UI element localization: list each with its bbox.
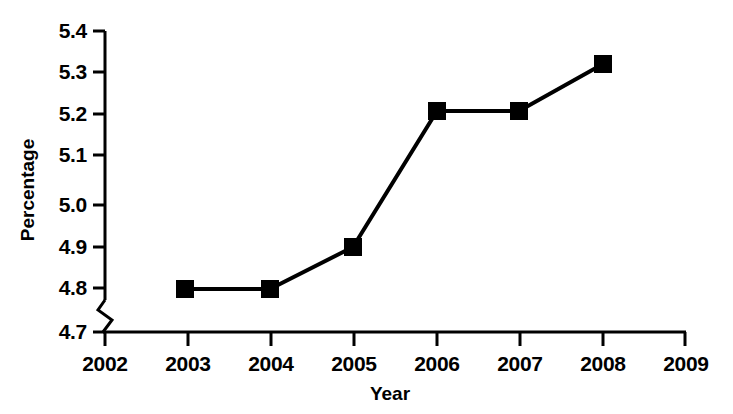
data-point-2008 — [594, 55, 612, 73]
y-axis-ticks — [93, 31, 105, 332]
x-tick-label-2007: 2007 — [497, 352, 543, 376]
x-tick-label-2004: 2004 — [248, 352, 294, 376]
data-markers — [176, 55, 612, 298]
data-point-2006 — [428, 102, 446, 120]
x-axis-ticks — [105, 332, 685, 346]
y-tick-label-5-4: 5.4 — [5, 19, 87, 43]
y-tick-label-5-3: 5.3 — [5, 60, 87, 84]
x-tick-label-2003: 2003 — [165, 352, 211, 376]
x-tick-label-2002: 2002 — [82, 352, 128, 376]
x-tick-label-2006: 2006 — [414, 352, 460, 376]
x-tick-label-2005: 2005 — [331, 352, 377, 376]
data-point-2007 — [510, 102, 528, 120]
y-axis-break-zigzag — [98, 300, 112, 332]
y-tick-label-5-2: 5.2 — [5, 102, 87, 126]
data-line-percentage — [185, 64, 603, 289]
y-tick-label-4-8: 4.8 — [5, 276, 87, 300]
y-tick-label-4-7: 4.7 — [5, 320, 87, 344]
x-tick-label-2008: 2008 — [580, 352, 626, 376]
data-point-2004 — [261, 280, 279, 298]
x-tick-label-2009: 2009 — [663, 352, 709, 376]
line-chart: 5.4 5.3 5.2 5.1 5.0 4.9 4.8 4.7 2002 200… — [0, 0, 733, 414]
y-axis-title: Percentage — [17, 139, 39, 241]
data-point-2005 — [344, 238, 362, 256]
x-axis-title: Year — [370, 383, 410, 405]
data-point-2003 — [176, 280, 194, 298]
